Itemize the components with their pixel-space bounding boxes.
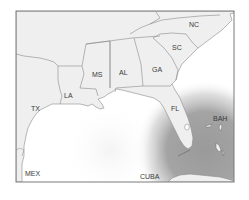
label-la: LA xyxy=(64,92,73,99)
label-ms: MS xyxy=(92,71,103,78)
label-bah: BAH xyxy=(213,115,227,122)
label-fl: FL xyxy=(171,105,179,112)
label-cuba: CUBA xyxy=(140,173,160,180)
label-ga: GA xyxy=(152,66,162,73)
label-mex: MEX xyxy=(25,170,41,177)
label-sc: SC xyxy=(172,44,182,51)
lake-okeechobee xyxy=(185,124,190,130)
label-nc: NC xyxy=(189,21,199,28)
label-tx: TX xyxy=(31,105,40,112)
label-al: AL xyxy=(119,69,128,76)
map: NC SC GA AL MS LA TX FL BAH MEX CUBA xyxy=(0,0,249,200)
